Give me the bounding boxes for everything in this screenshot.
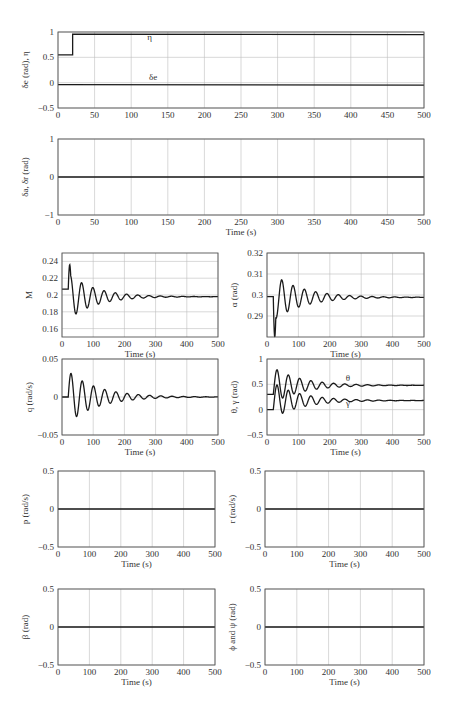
series-annotation: γ: [345, 398, 350, 408]
x-tick-label: 400: [180, 437, 194, 447]
y-tick-label: −0.5: [245, 660, 262, 670]
series-line: [62, 265, 218, 314]
x-tick-label: 300: [145, 667, 159, 677]
x-tick-label: 450: [381, 110, 395, 120]
y-tick-label: 0.3: [252, 290, 264, 300]
y-tick-label: 0.5: [252, 379, 264, 389]
x-tick-label: 300: [354, 339, 368, 349]
grid: [58, 32, 424, 108]
x-tick-label: 400: [344, 217, 358, 227]
y-tick-label: 0.16: [42, 324, 58, 334]
y-axis-label: q (rad/s): [24, 382, 34, 412]
x-tick-label: 100: [290, 549, 304, 559]
series-line: [58, 85, 424, 86]
x-tick-label: 200: [118, 339, 132, 349]
y-tick-label: 1: [50, 27, 55, 37]
y-axis-label: δa, δr (rad): [20, 157, 30, 197]
y-tick-label: −0.5: [38, 660, 55, 670]
x-tick-label: 400: [180, 339, 194, 349]
y-tick-label: 0.22: [42, 273, 58, 283]
chart-roll-rate: 0100200300400500−0.500.5Time (s)p (rad/s…: [20, 466, 222, 569]
y-axis-label: r (rad/s): [227, 495, 237, 524]
x-tick-label: 400: [386, 339, 400, 349]
x-tick-label: 100: [86, 339, 100, 349]
x-tick-label: 100: [83, 667, 97, 677]
y-tick-label: −0.05: [37, 430, 58, 440]
x-tick-label: 500: [417, 339, 431, 349]
x-tick-label: 250: [234, 110, 248, 120]
x-tick-label: 0: [56, 549, 61, 559]
series-line: [62, 374, 218, 417]
x-axis-label: Time (s): [330, 447, 360, 457]
x-tick-label: 0: [60, 437, 65, 447]
y-tick-label: −1: [44, 210, 54, 220]
x-tick-label: 200: [322, 549, 336, 559]
x-tick-label: 0: [56, 217, 61, 227]
x-tick-label: 0: [263, 549, 268, 559]
y-tick-label: 0.18: [42, 307, 58, 317]
x-tick-label: 100: [124, 217, 138, 227]
y-axis-label: δe (rad), η: [20, 51, 30, 88]
x-tick-label: 500: [417, 217, 431, 227]
y-axis-label: M: [24, 291, 34, 299]
y-axis-label: β (rad): [20, 615, 30, 639]
x-tick-label: 300: [354, 437, 368, 447]
x-tick-label: 100: [86, 437, 100, 447]
y-tick-label: −0.5: [38, 542, 55, 552]
x-tick-label: 150: [161, 217, 175, 227]
y-tick-label: 1: [259, 354, 264, 364]
series-annotation: η: [147, 32, 152, 42]
x-tick-label: 50: [90, 217, 100, 227]
y-tick-label: 0.5: [250, 584, 262, 594]
x-tick-label: 300: [354, 667, 368, 677]
x-tick-label: 200: [118, 437, 132, 447]
x-tick-label: 400: [177, 549, 191, 559]
x-tick-label: 400: [385, 549, 399, 559]
x-tick-label: 300: [149, 437, 163, 447]
chart-mach: 01002003004005000.160.180.20.220.24Time …: [24, 253, 225, 359]
y-tick-label: 0: [50, 622, 55, 632]
x-tick-label: 100: [290, 667, 304, 677]
y-tick-label: 0: [54, 392, 59, 402]
x-tick-label: 500: [211, 437, 225, 447]
x-axis-label: Time (s): [329, 677, 359, 687]
x-axis-label: Time (s): [330, 349, 360, 359]
figure: 050100150200250300350400450500−0.500.51δ…: [0, 0, 450, 702]
x-tick-label: 100: [292, 339, 306, 349]
x-tick-label: 300: [271, 110, 285, 120]
x-tick-label: 450: [381, 217, 395, 227]
x-tick-label: 350: [307, 110, 321, 120]
x-tick-label: 500: [208, 667, 222, 677]
x-tick-label: 200: [322, 667, 336, 677]
x-axis-label: Time (s): [125, 349, 155, 359]
y-axis-label: ϕ and ψ (rad): [227, 603, 237, 651]
y-axis-label: p (rad/s): [20, 494, 30, 524]
chart-bank-heading: 0100200300400500−0.500.5Time (s)ϕ and ψ …: [227, 584, 431, 687]
y-tick-label: 0.5: [43, 466, 55, 476]
x-tick-label: 0: [263, 667, 268, 677]
y-tick-label: 0.29: [247, 311, 263, 321]
y-tick-label: −0.5: [38, 103, 55, 113]
x-tick-label: 100: [292, 437, 306, 447]
chart-elevator-throttle: 050100150200250300350400450500−0.500.51δ…: [20, 27, 431, 120]
y-tick-label: 0: [259, 405, 264, 415]
y-tick-label: 0: [50, 78, 55, 88]
y-axis-label: θ, γ (rad): [229, 381, 239, 414]
y-tick-label: 0.5: [250, 466, 262, 476]
y-tick-label: 0.2: [47, 290, 58, 300]
x-axis-label: Time (s): [226, 227, 256, 237]
x-axis-label: Time (s): [329, 559, 359, 569]
y-tick-label: 0.05: [42, 354, 58, 364]
x-tick-label: 250: [234, 217, 248, 227]
x-tick-label: 0: [265, 437, 270, 447]
x-tick-label: 100: [83, 549, 97, 559]
y-tick-label: 0.5: [43, 52, 55, 62]
y-tick-label: 0.32: [247, 248, 263, 258]
x-tick-label: 0: [56, 667, 61, 677]
y-tick-label: 0: [50, 172, 55, 182]
y-tick-label: 0.31: [247, 269, 263, 279]
x-axis-label: Time (s): [121, 677, 151, 687]
x-tick-label: 100: [124, 110, 138, 120]
x-axis-label: Time (s): [121, 559, 151, 569]
y-axis-label: α (rad): [229, 283, 239, 307]
